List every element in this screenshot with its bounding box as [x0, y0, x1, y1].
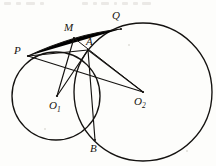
point-a: [87, 49, 89, 51]
segment-p-o2: [28, 56, 143, 92]
label-o1-subscript: 1: [57, 105, 61, 114]
segment-a-o2: [88, 50, 143, 92]
label-o2-subscript: 2: [142, 101, 146, 110]
point-q: [120, 28, 122, 30]
geometry-figure: P M A Q B O1 O2: [0, 0, 216, 166]
point-o1: [56, 95, 58, 97]
label-o1: O1: [49, 100, 61, 114]
point-m: [73, 37, 75, 39]
label-a: A: [86, 36, 93, 47]
label-q: Q: [112, 10, 120, 21]
point-b: [94, 139, 96, 141]
figure-canvas: [0, 0, 216, 166]
label-p: P: [14, 45, 21, 56]
point-p: [27, 55, 29, 57]
segment-a-b: [88, 50, 95, 140]
label-o2: O2: [134, 96, 146, 110]
label-m: M: [64, 22, 73, 33]
point-o2: [142, 91, 144, 93]
label-b: B: [90, 143, 97, 154]
label-o2-letter: O: [134, 95, 142, 107]
label-o1-letter: O: [49, 99, 57, 111]
